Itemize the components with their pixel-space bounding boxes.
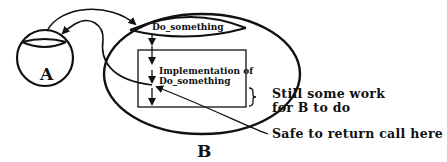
node-a-label: A bbox=[39, 64, 54, 84]
brace-icon bbox=[249, 88, 256, 106]
implementation-label-line2: Do_something bbox=[159, 76, 231, 86]
diagram-svg: A B Do_something Implementation of Do_so… bbox=[0, 0, 447, 162]
call-arrow bbox=[47, 9, 135, 31]
safe-return-label: Safe to return call here bbox=[272, 126, 443, 141]
safe-return-pointer bbox=[157, 87, 268, 134]
remaining-work-line2: for B to do bbox=[272, 100, 350, 115]
function-name-label: Do_something bbox=[152, 22, 224, 32]
node-b-label: B bbox=[197, 141, 211, 161]
implementation-label-line1: Implementation of bbox=[159, 66, 254, 76]
diagram-canvas: A B Do_something Implementation of Do_so… bbox=[0, 0, 447, 162]
remaining-work-line1: Still some work bbox=[272, 86, 385, 101]
